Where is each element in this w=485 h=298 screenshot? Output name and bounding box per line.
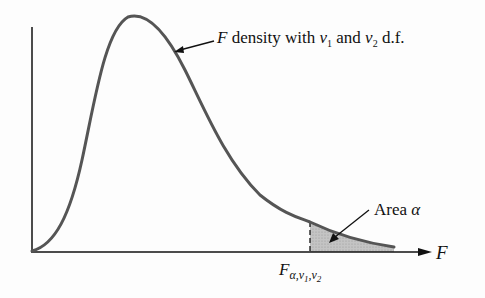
x-axis-arrowhead-icon: [418, 248, 432, 256]
area-label-arrow: [335, 210, 369, 237]
x-axis-label: F: [436, 242, 448, 264]
f-distribution-figure: F density with ν1 and ν2 d.f. Area α F F…: [0, 0, 485, 298]
critical-value-label: Fα,ν1,ν2: [279, 260, 321, 285]
area-label: Area α: [374, 200, 420, 220]
density-curve: [32, 16, 394, 251]
curve-arrowhead-icon: [174, 46, 184, 53]
curve-label-arrow: [180, 41, 214, 50]
curve-label: F density with ν1 and ν2 d.f.: [217, 28, 405, 49]
